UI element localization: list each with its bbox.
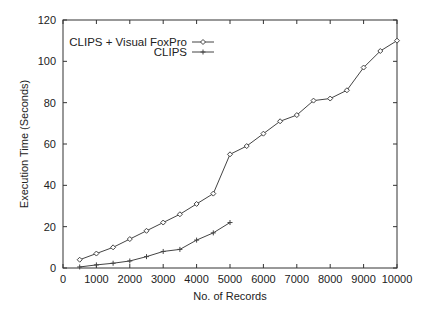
data-point-plus <box>194 238 199 243</box>
data-point-plus <box>111 261 116 266</box>
data-point-diamond <box>177 212 182 217</box>
data-point-plus <box>161 249 166 254</box>
data-point-diamond <box>201 40 206 45</box>
series-1 <box>77 220 232 269</box>
x-tick-label: 4000 <box>184 273 208 285</box>
data-point-plus <box>177 247 182 252</box>
x-tick-label: 8000 <box>318 273 342 285</box>
data-point-diamond <box>395 38 400 43</box>
data-point-diamond <box>328 96 333 101</box>
legend-item-clips: CLIPS <box>154 46 214 58</box>
series-line <box>80 41 397 260</box>
data-point-diamond <box>127 237 132 242</box>
data-point-plus <box>211 230 216 235</box>
x-tick-label: 10000 <box>382 273 413 285</box>
chart: 0100020003000400050006000700080009000100… <box>0 0 427 319</box>
data-point-plus <box>127 258 132 263</box>
y-axis-label: Execution Time (Seconds) <box>18 80 30 208</box>
legend-label: CLIPS <box>154 46 188 58</box>
x-tick-label: 0 <box>60 273 66 285</box>
data-point-diamond <box>77 257 82 262</box>
y-tick-label: 120 <box>38 14 56 26</box>
legend: CLIPS + Visual FoxPro CLIPS <box>69 36 214 58</box>
data-point-diamond <box>144 228 149 233</box>
x-tick-label: 9000 <box>351 273 375 285</box>
data-point-plus <box>201 50 206 55</box>
data-point-plus <box>94 262 99 267</box>
data-point-diamond <box>228 152 233 157</box>
data-point-diamond <box>111 245 116 250</box>
x-tick-label: 7000 <box>285 273 309 285</box>
data-point-plus <box>144 254 149 259</box>
x-tick-label: 5000 <box>218 273 242 285</box>
x-tick-label: 1000 <box>84 273 108 285</box>
data-point-diamond <box>211 191 216 196</box>
data-point-plus <box>77 264 82 269</box>
y-tick-label: 20 <box>44 221 56 233</box>
x-tick-label: 2000 <box>118 273 142 285</box>
series-0 <box>77 38 399 262</box>
y-tick-label: 60 <box>44 138 56 150</box>
series-line <box>80 223 230 267</box>
plot-frame <box>63 20 397 268</box>
legend-item-clips-foxpro: CLIPS + Visual FoxPro <box>69 36 214 48</box>
x-tick-label: 3000 <box>151 273 175 285</box>
data-point-plus <box>228 220 233 225</box>
y-axis-ticks: 020406080100120 <box>38 14 397 274</box>
y-tick-label: 0 <box>50 262 56 274</box>
y-tick-label: 80 <box>44 97 56 109</box>
series-layer <box>77 38 399 269</box>
legend-line-sample <box>192 50 214 55</box>
x-tick-label: 6000 <box>251 273 275 285</box>
x-axis-label: No. of Records <box>193 290 267 302</box>
y-tick-label: 40 <box>44 179 56 191</box>
plot-border <box>63 20 397 268</box>
legend-line-sample <box>192 40 214 45</box>
y-tick-label: 100 <box>38 55 56 67</box>
data-point-diamond <box>161 220 166 225</box>
data-point-diamond <box>194 201 199 206</box>
data-point-diamond <box>94 251 99 256</box>
